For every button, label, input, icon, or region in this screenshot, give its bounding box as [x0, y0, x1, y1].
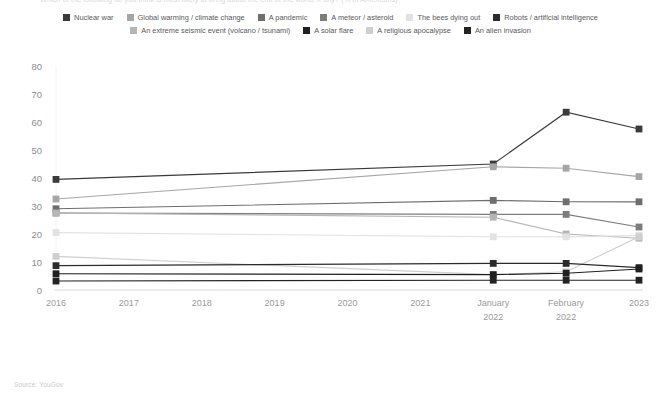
square-swatch — [303, 27, 310, 34]
x-axis-tick-label: 2016 — [46, 298, 66, 308]
data-point-marker[interactable] — [490, 233, 497, 240]
series-line — [56, 280, 639, 281]
data-point-marker[interactable] — [636, 173, 643, 180]
data-series[interactable] — [53, 197, 643, 212]
data-series[interactable] — [53, 210, 643, 231]
square-swatch — [406, 14, 413, 21]
data-point-marker[interactable] — [490, 163, 497, 170]
x-axis-tick-label-line2: 2022 — [483, 312, 503, 322]
y-axis-tick-label: 20 — [31, 229, 42, 240]
data-point-marker[interactable] — [636, 266, 643, 273]
data-point-marker[interactable] — [53, 210, 60, 217]
y-axis-tick-label: 60 — [31, 117, 42, 128]
data-point-marker[interactable] — [636, 126, 643, 133]
data-series[interactable] — [53, 277, 643, 285]
legend-row: An extreme seismic event (volcano / tsun… — [130, 26, 531, 35]
legend-item-label: A pandemic — [269, 13, 308, 22]
y-axis-tick-label: 70 — [31, 89, 42, 100]
data-series[interactable] — [53, 233, 643, 278]
data-point-marker[interactable] — [563, 233, 570, 240]
x-axis-tick-label: 2018 — [192, 298, 212, 308]
data-point-marker[interactable] — [490, 197, 497, 204]
y-axis-tick-label: 40 — [31, 173, 42, 184]
data-point-marker[interactable] — [563, 211, 570, 218]
square-swatch — [464, 27, 471, 34]
x-axis-tick-label: 2021 — [410, 298, 430, 308]
square-swatch — [130, 27, 137, 34]
data-point-marker[interactable] — [636, 198, 643, 205]
data-point-marker[interactable] — [490, 277, 497, 284]
legend-item[interactable]: An extreme seismic event (volcano / tsun… — [130, 26, 290, 35]
x-axis-tick-label: February — [548, 298, 585, 308]
data-point-marker[interactable] — [563, 165, 570, 172]
data-point-marker[interactable] — [636, 233, 643, 240]
legend-item-label: A meteor / asteroid — [331, 13, 393, 22]
line-chart-svg: 0102030405060708020162017201820192020202… — [0, 52, 661, 352]
series-line — [56, 167, 639, 199]
data-point-marker[interactable] — [490, 260, 497, 267]
x-axis-tick-label: January — [477, 298, 510, 308]
data-point-marker[interactable] — [53, 196, 60, 203]
y-axis-tick-label: 50 — [31, 145, 42, 156]
series-line — [56, 237, 639, 275]
series-line — [56, 263, 639, 267]
data-series[interactable] — [53, 260, 643, 271]
legend-item-label: The bees dying out — [417, 13, 480, 22]
data-point-marker[interactable] — [636, 224, 643, 231]
x-axis-tick-label-line2: 2022 — [556, 312, 576, 322]
legend-item[interactable]: An alien invasion — [464, 26, 531, 35]
legend-item-label: An extreme seismic event (volcano / tsun… — [141, 26, 290, 35]
series-line — [56, 112, 639, 179]
y-axis-tick-label: 0 — [37, 285, 42, 296]
data-point-marker[interactable] — [53, 176, 60, 183]
x-axis-tick-label: 2023 — [629, 298, 649, 308]
data-point-marker[interactable] — [563, 198, 570, 205]
chart-title: Which of the following do you think is m… — [40, 0, 649, 3]
legend-item-label: Nuclear war — [74, 13, 113, 22]
legend-item-label: Global warming / climate change — [138, 13, 245, 22]
legend-item[interactable]: A solar flare — [303, 26, 353, 35]
legend-item[interactable]: Nuclear war — [63, 13, 113, 22]
square-swatch — [63, 14, 70, 21]
data-point-marker[interactable] — [563, 270, 570, 277]
data-point-marker[interactable] — [563, 109, 570, 116]
data-point-marker[interactable] — [563, 277, 570, 284]
legend-item-label: A religious apocalypse — [377, 26, 451, 35]
chart-title-strip: Which of the following do you think is m… — [40, 0, 649, 11]
data-point-marker[interactable] — [636, 277, 643, 284]
x-axis-tick-label: 2019 — [265, 298, 285, 308]
square-swatch — [127, 14, 134, 21]
legend-item[interactable]: A meteor / asteroid — [320, 13, 393, 22]
legend-item[interactable]: The bees dying out — [406, 13, 480, 22]
data-series[interactable] — [53, 109, 643, 183]
chart-plot-area: 0102030405060708020162017201820192020202… — [0, 52, 661, 352]
x-axis-tick-label: 2017 — [119, 298, 139, 308]
square-swatch — [258, 14, 265, 21]
data-point-marker[interactable] — [53, 270, 60, 277]
chart-page: Which of the following do you think is m… — [0, 0, 661, 408]
data-point-marker[interactable] — [53, 262, 60, 269]
y-axis-gridlines: 01020304050607080 — [31, 61, 42, 296]
x-axis-labels: 201620172018201920202021January2022Febru… — [46, 298, 649, 322]
data-point-marker[interactable] — [53, 229, 60, 236]
legend-item-label: A solar flare — [314, 26, 353, 35]
legend-item[interactable]: A pandemic — [258, 13, 308, 22]
data-point-marker[interactable] — [563, 260, 570, 267]
y-axis-tick-label: 80 — [31, 61, 42, 72]
y-axis-tick-label: 10 — [31, 257, 42, 268]
square-swatch — [493, 14, 500, 21]
legend-item[interactable]: Robots / artificial intelligence — [493, 13, 598, 22]
series-line — [56, 213, 639, 238]
series-line — [56, 233, 639, 237]
series-group — [53, 109, 643, 285]
data-point-marker[interactable] — [490, 214, 497, 221]
legend-item-label: An alien invasion — [475, 26, 531, 35]
series-line — [56, 213, 639, 227]
legend-item[interactable]: Global warming / climate change — [127, 13, 245, 22]
legend-row: Nuclear warGlobal warming / climate chan… — [63, 13, 598, 22]
chart-source: Source: YouGov — [14, 381, 63, 388]
data-point-marker[interactable] — [53, 253, 60, 260]
legend-item[interactable]: A religious apocalypse — [366, 26, 451, 35]
square-swatch — [366, 27, 373, 34]
data-point-marker[interactable] — [53, 278, 60, 285]
